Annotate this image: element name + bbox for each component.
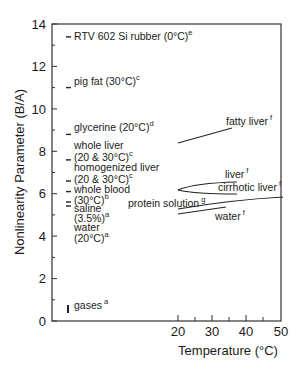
label-rtv: RTV 602 Si rubber (0°C)e [74, 28, 192, 42]
line-fatty-liver [178, 128, 232, 143]
marker-annotations: RTV 602 Si rubber (0°C)e pig fat (30°C)c… [73, 28, 192, 311]
y-tick-10: 10 [32, 102, 46, 117]
y-tick-12: 12 [32, 59, 46, 74]
point-markers [66, 37, 71, 313]
label-protein-solution: protein solutiong [128, 195, 205, 209]
label-water-line: waterf [214, 208, 246, 222]
label-gases: gasesa [74, 297, 109, 311]
label-fatty-liver: fatty liverf [226, 113, 273, 127]
label-water-2: (20°C)a [74, 230, 109, 244]
chart-canvas: 0 2 4 6 8 10 12 14 20 30 40 50 Temperatu… [0, 0, 299, 373]
y-tick-4: 4 [39, 229, 46, 244]
x-tick-50: 50 [274, 324, 288, 339]
x-axis-ticks [178, 315, 263, 321]
label-pig-fat: pig fat (30°C)c [74, 73, 140, 87]
label-glycerine: glycerine (20°C)d [74, 119, 154, 133]
x-tick-labels: 20 30 40 50 [171, 324, 288, 339]
y-tick-0: 0 [39, 314, 46, 329]
y-axis-ticks [52, 24, 57, 321]
x-tick-20: 20 [171, 324, 185, 339]
y-tick-8: 8 [39, 144, 46, 159]
label-homogenized-1: homogenized liver [74, 161, 160, 173]
y-tick-labels: 0 2 4 6 8 10 12 14 [32, 17, 46, 329]
x-axis-title: Temperature (°C) [178, 343, 278, 358]
x-tick-30: 30 [205, 324, 219, 339]
x-tick-40: 40 [239, 324, 253, 339]
y-tick-14: 14 [32, 17, 46, 32]
y-tick-2: 2 [39, 271, 46, 286]
label-whole-liver-1: whole liver [73, 139, 124, 151]
label-liver: liverf [225, 166, 249, 180]
label-cirrhotic-liver: cirrhotic liverf [218, 179, 282, 193]
y-axis-title: Nonlinearity Parameter (B/A) [12, 89, 27, 255]
y-tick-6: 6 [39, 186, 46, 201]
